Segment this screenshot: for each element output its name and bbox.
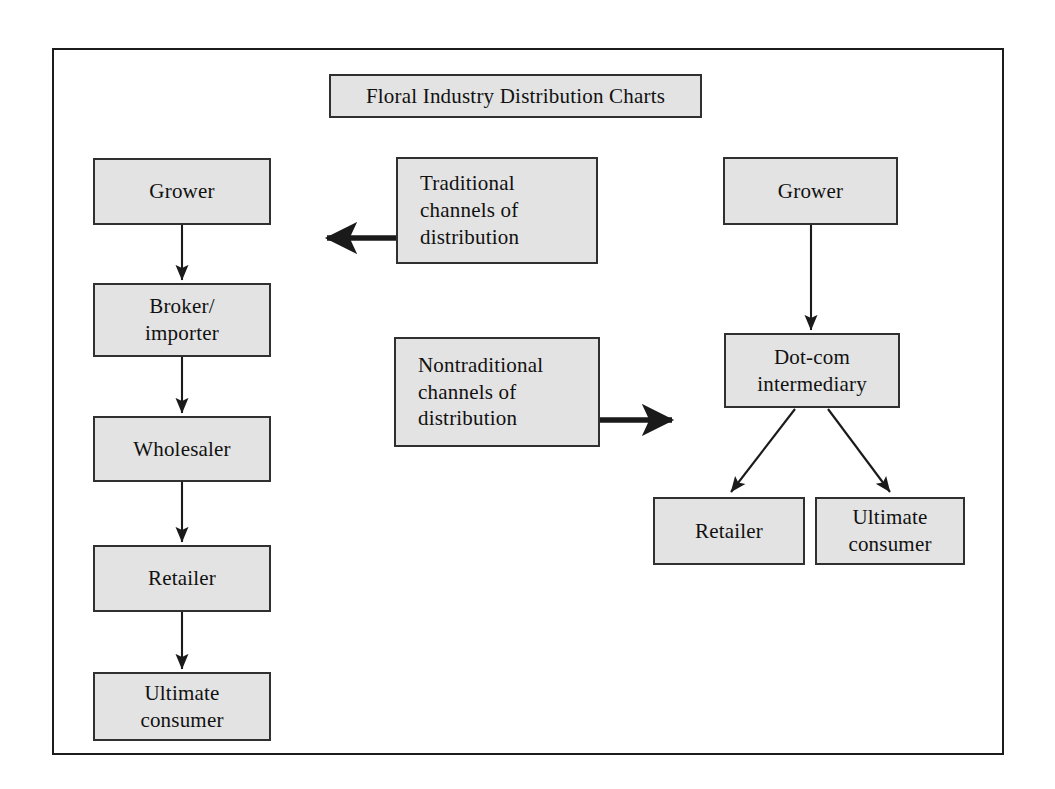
node-wholesaler-label: Wholesaler [133, 436, 231, 463]
node-grower-online-label: Grower [778, 178, 843, 205]
node-traditional-channels: Traditional channels of distribution [396, 157, 598, 264]
node-traditional-channels-label: Traditional channels of distribution [420, 170, 519, 251]
node-ultimate-consumer: Ultimate consumer [93, 672, 271, 741]
node-grower: Grower [93, 158, 271, 225]
node-grower-online: Grower [723, 157, 898, 225]
node-retailer-label: Retailer [148, 565, 216, 592]
node-broker-importer-label: Broker/ importer [145, 293, 219, 347]
chart-title-box: Floral Industry Distribution Charts [329, 74, 702, 118]
node-dotcom-intermediary-label: Dot-com intermediary [757, 344, 867, 398]
node-wholesaler: Wholesaler [93, 416, 271, 482]
node-retailer-online-label: Retailer [695, 518, 763, 545]
node-nontraditional-channels: Nontraditional channels of distribution [394, 337, 600, 447]
node-dotcom-intermediary: Dot-com intermediary [724, 333, 900, 408]
node-nontraditional-channels-label: Nontraditional channels of distribution [418, 352, 543, 433]
chart-title-label: Floral Industry Distribution Charts [366, 83, 665, 110]
node-broker-importer: Broker/ importer [93, 283, 271, 357]
node-retailer-online: Retailer [653, 497, 805, 565]
diagram-page: Floral Industry Distribution Charts Grow… [0, 0, 1055, 789]
node-ultimate-consumer-online: Ultimate consumer [815, 497, 965, 565]
node-grower-label: Grower [149, 178, 214, 205]
node-ultimate-consumer-online-label: Ultimate consumer [848, 504, 931, 558]
node-retailer: Retailer [93, 545, 271, 612]
node-ultimate-consumer-label: Ultimate consumer [140, 680, 223, 734]
